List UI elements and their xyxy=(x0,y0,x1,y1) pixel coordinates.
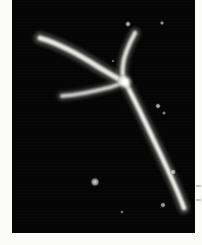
speck-lower-right-b xyxy=(160,202,166,208)
edge-tick-upper xyxy=(196,185,201,187)
speck-lower-right-a xyxy=(170,169,177,176)
speck-bottom-center xyxy=(120,210,124,214)
speck-mid-right-b xyxy=(162,111,166,115)
speck-center-lower xyxy=(90,177,100,187)
speck-top-left-of-branch xyxy=(125,21,131,27)
caption-strip xyxy=(12,233,202,245)
micrograph-image xyxy=(12,0,195,233)
speck-near-junction xyxy=(111,59,115,63)
central-junction-core xyxy=(122,79,129,86)
micrograph-canvas xyxy=(12,0,195,233)
figure-page xyxy=(0,0,202,245)
edge-tick-lower xyxy=(196,199,201,201)
speck-top-right xyxy=(160,21,165,26)
speck-mid-right-a xyxy=(155,103,161,109)
